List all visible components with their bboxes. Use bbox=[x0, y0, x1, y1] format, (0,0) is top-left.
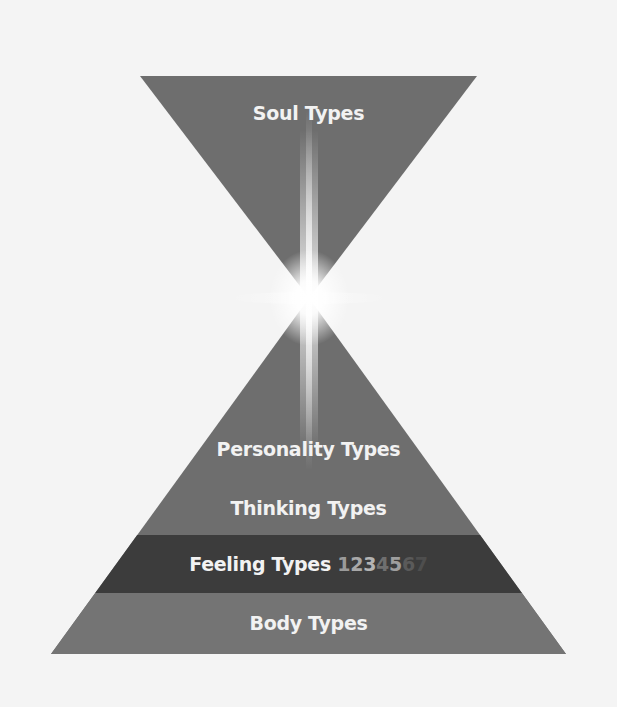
feeling-type-4: 4 bbox=[376, 553, 389, 575]
feeling-types-label: Feeling Types bbox=[189, 553, 331, 575]
personality-types-label: Personality Types bbox=[0, 438, 617, 460]
feeling-type-3: 3 bbox=[363, 553, 376, 575]
feeling-types-row: Feeling Types 1234567 bbox=[0, 553, 617, 575]
thinking-types-label: Thinking Types bbox=[0, 497, 617, 519]
feeling-type-1: 1 bbox=[337, 553, 350, 575]
feeling-type-5: 5 bbox=[389, 553, 402, 575]
feeling-type-6: 6 bbox=[402, 553, 415, 575]
feeling-type-numbers: 1234567 bbox=[337, 553, 427, 575]
hourglass-diagram: Soul Types Personality Types Thinking Ty… bbox=[0, 0, 617, 707]
feeling-type-2: 2 bbox=[350, 553, 363, 575]
body-types-label: Body Types bbox=[0, 612, 617, 634]
soul-types-label: Soul Types bbox=[0, 102, 617, 124]
feeling-type-7: 7 bbox=[415, 553, 428, 575]
